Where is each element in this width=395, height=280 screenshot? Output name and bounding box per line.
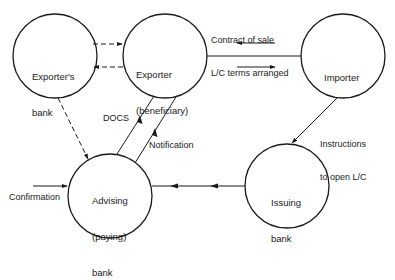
label-instructions-line2: to open L/C — [320, 172, 367, 183]
label-issuing-bank: Issuing bank — [271, 173, 301, 257]
label-advising-bank-line3: bank — [92, 267, 128, 279]
label-issuing-bank-line2: bank — [271, 233, 301, 245]
label-exporter-line2: (beneficiary) — [136, 105, 188, 117]
label-contract: Contract of sale L/C terms arranged — [211, 13, 289, 90]
arrowhead-notification — [152, 128, 158, 137]
label-importer: Importer — [324, 48, 359, 96]
label-confirmation: Confirmation — [9, 192, 60, 203]
label-exporters-bank-line2: bank — [32, 107, 74, 119]
arrowhead-issuing-to-advising-2 — [210, 184, 218, 189]
label-advising-bank-line2: (paying) — [92, 231, 128, 243]
label-advising-bank: Advising (paying) bank — [92, 171, 128, 280]
label-issuing-bank-line1: Issuing — [271, 197, 301, 209]
label-exporters-bank: Exporter's bank — [32, 47, 74, 131]
label-notification: Notification — [149, 140, 194, 151]
label-advising-bank-line1: Advising — [92, 195, 128, 207]
label-contract-line2: L/C terms arranged — [211, 68, 289, 79]
label-instructions: Instructions to open L/C — [320, 117, 367, 194]
label-instructions-line1: Instructions — [320, 139, 367, 150]
label-importer-line1: Importer — [324, 72, 359, 84]
label-exporters-bank-line1: Exporter's — [32, 71, 74, 83]
label-exporter: Exporter (beneficiary) — [136, 45, 188, 129]
arrowhead-issuing-to-advising-1 — [170, 184, 178, 189]
label-docs: DOCS — [103, 113, 129, 124]
label-contract-line1: Contract of sale — [211, 35, 289, 46]
label-exporter-line1: Exporter — [136, 69, 188, 81]
